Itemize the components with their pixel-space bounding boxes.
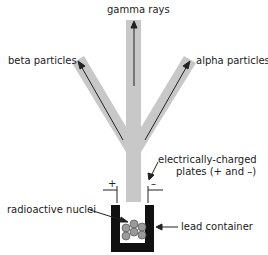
beta-label: beta particles [8, 55, 77, 67]
plates-label-line1: electrically-charged [158, 154, 257, 166]
gamma-label: gamma rays [107, 4, 170, 16]
minus-sign: – [151, 178, 156, 190]
diagram-canvas [0, 0, 268, 255]
plates-label-line2: plates (+ and –) [176, 166, 256, 178]
alpha-label: alpha particles [196, 55, 268, 67]
plus-sign: + [108, 178, 116, 190]
container-label: lead container [181, 221, 253, 233]
radioactive-nuclei [122, 220, 146, 240]
nuclei-label: radioactive nuclei [7, 204, 96, 216]
